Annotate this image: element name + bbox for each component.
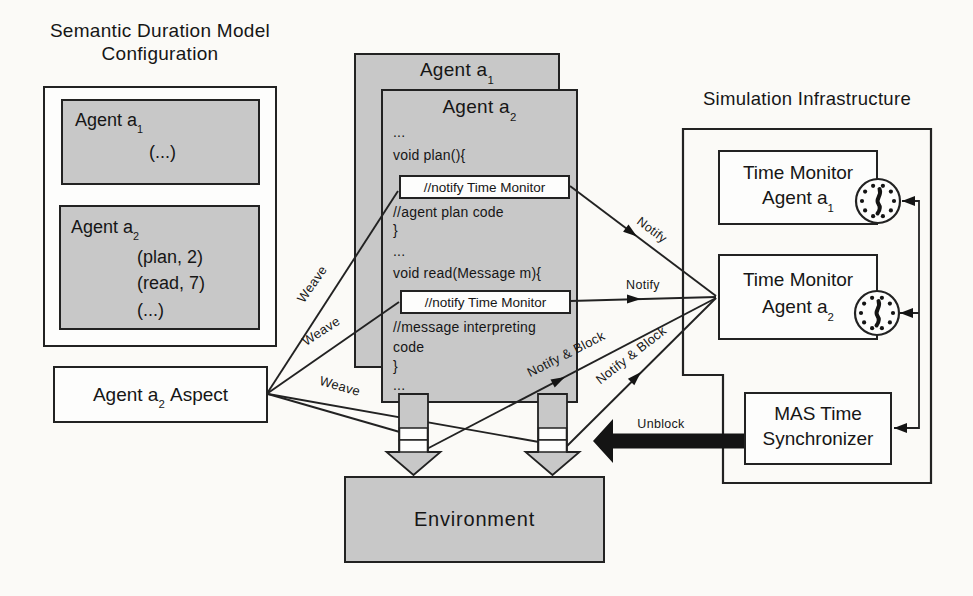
notify-arrowhead-2 (627, 295, 641, 304)
notify-line-2 (570, 297, 716, 301)
time-monitor-a2-box: Time Monitor Agent a2 (718, 254, 878, 340)
aspect-box: Agent a2 Aspect (53, 366, 268, 423)
time-monitor-a1-line1: Time Monitor (720, 162, 876, 184)
aspect-label: Agent a2 Aspect (93, 384, 228, 406)
weave-edge-label-1: Weave (294, 263, 330, 306)
config-agent2-box: Agent a2 (plan, 2) (read, 7) (...) (59, 205, 260, 330)
code-line: ... (393, 377, 405, 393)
code-line: //agent plan code (393, 204, 504, 220)
config-agent1-box: Agent a1 (...) (61, 99, 260, 185)
code-line: ... (393, 124, 405, 140)
agent-a1-code-title: Agent a1 (356, 59, 558, 81)
time-monitor-a1-line2: Agent a1 (720, 187, 876, 209)
config-panel-title-line2: Configuration (43, 43, 277, 65)
weave-edge-label-3: Weave (318, 373, 362, 399)
agent-a2-code-title: Agent a2 (383, 96, 576, 118)
environment-box: Environment (344, 476, 605, 563)
unblock-edge-label: Unblock (637, 417, 684, 431)
sim-infrastructure-title: Simulation Infrastructure (683, 88, 931, 110)
config-agent1-item: (...) (149, 142, 176, 163)
mas-line1: MAS Time (746, 403, 890, 425)
arrowhead-into-mas (894, 423, 907, 433)
notify-block-edge-label-2: Notify & Block (593, 323, 669, 387)
code-line: void plan(){ (393, 147, 465, 163)
config-agent2-item: (...) (137, 300, 164, 321)
code-line: //message interpreting (393, 319, 536, 335)
code-line: void read(Message m){ (393, 265, 541, 281)
code-line: } (393, 222, 398, 238)
config-agent2-item: (plan, 2) (137, 247, 203, 268)
time-monitor-a1-box: Time Monitor Agent a1 (718, 150, 878, 225)
notify-edge-label-1: Notify (634, 214, 669, 246)
code-line: code (393, 339, 424, 355)
config-agent2-label: Agent a2 (71, 217, 139, 238)
code-line: } (393, 358, 398, 374)
execution-arrow-left (387, 394, 441, 475)
arrowhead-into-clock-a1 (902, 196, 915, 206)
config-panel-title-line1: Semantic Duration Model (43, 20, 277, 42)
mas-line2: Synchronizer (746, 428, 890, 450)
mas-time-synchronizer-box: MAS Time Synchronizer (744, 392, 892, 465)
execution-arrow-right (526, 394, 580, 475)
notify-time-monitor-callout-1: //notify Time Monitor (399, 175, 570, 199)
notify-block-arrowhead-2 (628, 372, 641, 385)
arrowhead-into-clock-a2 (900, 308, 913, 318)
time-monitor-a2-line1: Time Monitor (720, 269, 876, 291)
notify-edge-label-2: Notify (626, 278, 660, 292)
config-agent1-label: Agent a1 (75, 110, 143, 131)
code-line: ... (393, 243, 405, 259)
figure-canvas: Semantic Duration Model Configuration Ag… (0, 0, 973, 596)
config-agent2-item: (read, 7) (137, 273, 205, 294)
sync-feedback-line (894, 201, 919, 428)
notify-time-monitor-callout-2: //notify Time Monitor (400, 290, 571, 314)
time-monitor-a2-line2: Agent a2 (720, 296, 876, 318)
weave-edge-label-2: Weave (299, 313, 342, 348)
